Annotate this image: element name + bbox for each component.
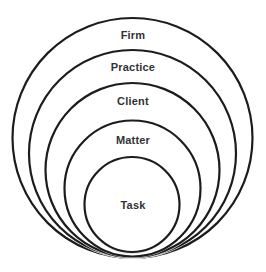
nested-circles-diagram: Firm Practice Client Matter Task — [0, 0, 266, 272]
label-firm: Firm — [0, 29, 266, 41]
label-matter: Matter — [0, 134, 266, 146]
label-client: Client — [0, 95, 266, 107]
label-task: Task — [0, 199, 266, 211]
label-practice: Practice — [0, 61, 266, 73]
